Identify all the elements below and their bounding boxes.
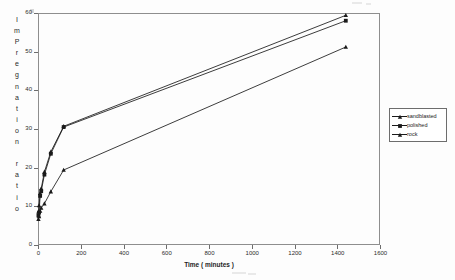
x-axis-tick: 600 — [166, 245, 167, 249]
series-sandblasted — [36, 13, 348, 214]
y-axis-title-char: o — [9, 125, 25, 136]
data-point-marker — [398, 124, 402, 128]
legend: sandblastedpolishedrock — [389, 108, 447, 142]
y-axis-title-char: o — [9, 203, 25, 214]
data-point-marker — [42, 201, 46, 205]
triangle-marker-icon — [397, 114, 403, 120]
legend-item-label: rock — [407, 130, 417, 138]
scan-speckle — [352, 2, 362, 4]
x-axis-tick-label: 0 — [37, 250, 40, 256]
x-axis-tick-label: 1400 — [331, 250, 344, 256]
y-axis-title-char: t — [9, 103, 25, 114]
scan-speckle — [232, 272, 246, 274]
y-axis-title-char: a — [9, 169, 25, 180]
legend-key-icon — [392, 112, 407, 120]
y-axis-title-char: r — [9, 158, 25, 169]
legend-item-label: polished — [407, 121, 428, 129]
chart-page: ImPregnation ratio 0102030405060 0200400… — [0, 0, 455, 280]
y-axis-title-char: r — [9, 47, 25, 58]
y-axis-tick-label: 50 — [25, 48, 32, 54]
data-point-marker — [43, 173, 47, 177]
x-axis-tick-label: 1600 — [374, 250, 387, 256]
x-axis-tick-label: 1000 — [246, 250, 259, 256]
y-axis-title-char — [9, 147, 25, 158]
data-point-marker — [62, 125, 66, 129]
data-point-marker — [49, 189, 53, 193]
x-axis-tick-label: 1200 — [288, 250, 301, 256]
series-line — [38, 15, 345, 211]
data-point-marker — [344, 45, 348, 49]
plot-area: 0102030405060 02004006008001000120014001… — [38, 13, 380, 245]
y-axis-title-char: g — [9, 69, 25, 80]
data-point-marker — [38, 194, 42, 198]
data-point-marker — [344, 19, 348, 23]
x-axis-tick: 400 — [124, 245, 125, 249]
triangle-marker-icon — [397, 132, 403, 138]
x-axis-tick-label: 400 — [119, 250, 129, 256]
y-axis-title-char: P — [9, 36, 25, 47]
legend-key-icon — [392, 121, 407, 129]
y-axis-tick-label: 0 — [29, 241, 32, 247]
data-point-marker — [39, 189, 43, 193]
y-axis-tick-label: 60 — [25, 9, 32, 15]
y-axis-title-char: n — [9, 81, 25, 92]
y-axis-title-char: I — [9, 14, 25, 25]
x-axis-tick-label: 600 — [162, 250, 172, 256]
x-axis-tick: 0 — [38, 245, 39, 249]
data-point-marker — [49, 152, 53, 156]
y-axis-tick-label: 10 — [25, 202, 32, 208]
x-axis-tick-label: 800 — [204, 250, 214, 256]
legend-item-label: sandblasted — [407, 112, 437, 120]
x-axis-tick: 800 — [209, 245, 210, 249]
legend-item-sandblasted[interactable]: sandblasted — [392, 112, 444, 120]
x-axis-tick: 1000 — [252, 245, 253, 249]
y-axis-tick-label: 30 — [25, 125, 32, 131]
series-plot — [38, 13, 380, 245]
y-axis-title: ImPregnation ratio — [9, 14, 25, 214]
legend-key-icon — [392, 130, 407, 138]
y-axis-title-char: i — [9, 114, 25, 125]
x-axis-tick-label: 200 — [76, 250, 86, 256]
y-axis-tick-label: 40 — [25, 86, 32, 92]
series-rock — [36, 45, 348, 221]
x-axis-tick: 200 — [81, 245, 82, 249]
scan-speckle — [248, 273, 256, 275]
legend-item-rock[interactable]: rock — [392, 130, 444, 138]
series-line — [38, 47, 345, 219]
y-axis-title-char: a — [9, 92, 25, 103]
scan-speckle — [366, 3, 371, 5]
y-axis-title-char: i — [9, 192, 25, 203]
x-axis-tick: 1600 — [380, 245, 381, 249]
x-axis-title: Time ( minutes ) — [38, 261, 380, 268]
y-axis-title-char: m — [9, 25, 25, 36]
y-axis-title-char: n — [9, 136, 25, 147]
data-point-marker — [344, 13, 348, 17]
y-axis-title-char: t — [9, 180, 25, 191]
x-axis-tick: 1200 — [295, 245, 296, 249]
data-point-marker — [398, 114, 402, 118]
data-point-marker — [398, 132, 402, 136]
legend-item-polished[interactable]: polished — [392, 121, 444, 129]
y-axis-title-char: e — [9, 58, 25, 69]
square-marker-icon — [397, 123, 403, 129]
x-axis-tick: 1400 — [337, 245, 338, 249]
y-axis-tick-label: 20 — [25, 164, 32, 170]
